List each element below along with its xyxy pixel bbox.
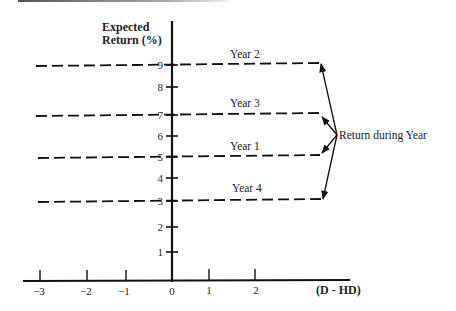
annotation-arrows (321, 64, 337, 199)
year-2-label: Year 2 (230, 48, 260, 60)
x-tick-m3: −3 (33, 285, 45, 297)
x-axis-label: (D - HD) (316, 283, 361, 297)
y-axis-label-line1: Expected (102, 20, 150, 34)
y-axis-label-line2: Return (%) (102, 33, 162, 47)
x-tick-1: 1 (206, 284, 212, 296)
x-axis (23, 280, 350, 281)
y-tick-2: 2 (158, 221, 164, 233)
axes (23, 21, 350, 282)
x-ticks (40, 269, 255, 281)
year-lines (36, 63, 322, 202)
y-tick-8: 8 (158, 81, 164, 93)
y-tick-1: 1 (158, 246, 164, 258)
year-labels: Year 2 Year 3 Year 1 Year 4 (230, 48, 262, 194)
y-tick-4: 4 (158, 172, 164, 184)
x-tick-0: 0 (169, 285, 175, 297)
year-4-line (38, 199, 322, 202)
chart: 9 8 7 6 5 4 3 2 1 −3 −2 −1 0 1 2 Expecte… (0, 0, 456, 311)
x-tick-labels: −3 −2 −1 0 1 2 (33, 284, 259, 297)
x-tick-2: 2 (253, 284, 259, 296)
annotation-label: Return during Year (339, 129, 427, 142)
x-tick-m1: −1 (118, 285, 130, 297)
y-tick-labels: 9 8 7 6 5 4 3 2 1 (158, 59, 164, 258)
x-tick-m2: −2 (80, 285, 92, 297)
year-1-line (38, 155, 320, 158)
year-4-label: Year 4 (232, 182, 262, 194)
year-3-label: Year 3 (230, 97, 260, 109)
year-1-label: Year 1 (230, 140, 260, 152)
y-tick-6: 6 (158, 130, 164, 142)
